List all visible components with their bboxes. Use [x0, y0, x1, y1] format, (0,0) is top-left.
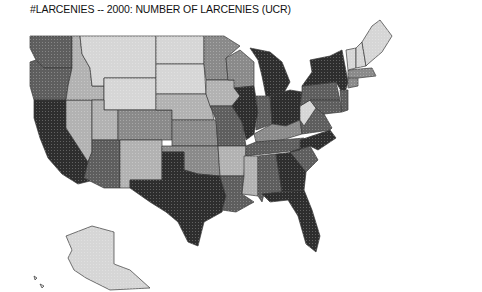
state-ks-halftone — [172, 120, 218, 146]
state-ar-halftone — [218, 146, 246, 176]
state-co-halftone — [118, 110, 172, 140]
state-ms-halftone — [242, 156, 258, 196]
state-mi-halftone — [250, 48, 290, 96]
state-me-halftone — [362, 20, 392, 66]
state-sd-halftone — [156, 64, 206, 94]
state-wy-halftone — [104, 78, 156, 110]
state-nd-halftone — [156, 36, 204, 64]
state-fl-halftone — [262, 190, 320, 252]
state-ak-halftone — [66, 226, 150, 290]
us-choropleth-map — [0, 0, 482, 292]
state-oh-halftone — [270, 90, 302, 126]
state-hi-halftone — [34, 276, 44, 288]
